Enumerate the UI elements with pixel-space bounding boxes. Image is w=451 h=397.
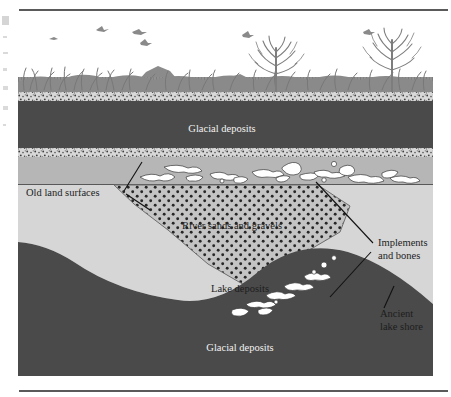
artifact-dot [274, 300, 278, 304]
bone-shape [246, 301, 276, 308]
artifact-dot [312, 270, 316, 274]
artifact-dot [332, 256, 337, 261]
top-horizontal-rule [19, 9, 448, 11]
bottom-horizontal-rule [19, 390, 448, 392]
speckled-band-upper [18, 92, 433, 101]
label-glacial-deposits-lower: Glacial deposits [206, 342, 273, 353]
grass-silhouette [18, 75, 433, 94]
margin-bleed-marks [0, 14, 14, 134]
artifact-dot [220, 179, 224, 183]
figure-page: Glacial deposits Old land surfaces River… [0, 0, 451, 397]
artifact-dot [321, 262, 327, 268]
label-ancient-lake-shore-line2: lake shore [380, 321, 423, 332]
label-ancient-lake-shore-line1: Ancient [380, 308, 413, 319]
label-river-sands-and-gravels: River sands and gravels [182, 220, 282, 231]
label-lake-deposits: Lake deposits [211, 283, 269, 294]
speckled-band-lower [18, 148, 433, 157]
bone-shape [304, 273, 331, 281]
bone-shape [266, 292, 296, 300]
bone-shape [284, 283, 314, 291]
artifact-dot [331, 161, 336, 166]
label-implements-and-bones-line2: and bones [378, 250, 420, 261]
label-old-land-surfaces: Old land surfaces [26, 187, 99, 198]
label-implements-and-bones-line1: Implements [378, 237, 428, 248]
artifact-dot [322, 178, 326, 182]
label-glacial-deposits-upper: Glacial deposits [188, 123, 255, 134]
cross-section-diagram: Glacial deposits Old land surfaces River… [18, 14, 433, 376]
